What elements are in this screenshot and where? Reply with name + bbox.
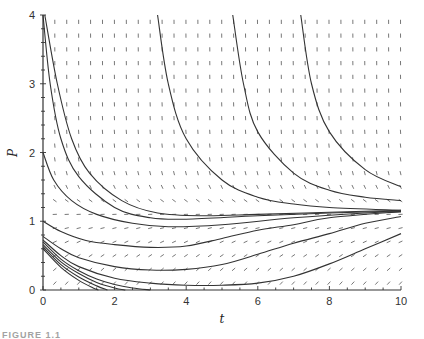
slope-mark (387, 228, 391, 229)
slope-mark (136, 228, 140, 229)
slope-mark (197, 185, 199, 189)
slope-mark (245, 185, 247, 189)
slope-mark (172, 254, 175, 256)
slope-mark (125, 199, 128, 201)
slope-mark (113, 268, 116, 271)
slope-mark (53, 282, 56, 285)
slope-mark (316, 282, 319, 285)
figure-caption: FIGURE 1.1 (2, 330, 61, 339)
slope-mark (375, 268, 378, 271)
slope-mark (196, 199, 199, 201)
slope-mark (65, 199, 68, 201)
slope-mark (245, 171, 246, 175)
slope-mark (399, 268, 402, 271)
slope-mark (339, 199, 342, 201)
slope-mark (160, 199, 163, 201)
slope-mark (340, 171, 341, 175)
x-tick-label: 0 (40, 295, 46, 307)
slope-mark (185, 282, 188, 285)
slope-mark (114, 157, 115, 161)
slope-mark (328, 185, 330, 189)
slope-mark (232, 282, 235, 285)
slope-mark (232, 268, 235, 271)
slope-mark (340, 185, 342, 189)
slope-mark (54, 171, 55, 175)
y-tick-label: 1 (29, 215, 35, 227)
slope-mark (387, 282, 390, 285)
slope-mark (232, 254, 235, 256)
slope-mark (54, 185, 56, 189)
slope-mark (125, 254, 128, 256)
slope-mark (363, 282, 366, 285)
x-tick-label: 6 (255, 295, 261, 307)
slope-mark (363, 254, 366, 256)
slope-mark (220, 241, 224, 243)
slope-mark (375, 282, 378, 285)
slope-mark (375, 254, 378, 256)
slope-mark (137, 199, 140, 201)
y-tick-label: 4 (29, 9, 35, 21)
slope-mark (245, 157, 246, 161)
x-tick-label: 8 (326, 295, 332, 307)
slope-mark (89, 199, 92, 201)
slope-mark (102, 171, 103, 175)
slope-mark (196, 282, 199, 285)
slope-mark (399, 282, 402, 285)
slope-mark (53, 199, 56, 201)
slope-mark (292, 282, 295, 285)
slope-mark (363, 268, 366, 271)
slope-mark (77, 254, 80, 256)
slope-mark (257, 185, 259, 189)
slope-mark (399, 241, 403, 243)
slope-mark (315, 254, 318, 256)
slope-mark (101, 268, 104, 271)
slope-mark (255, 228, 259, 229)
slope-mark (341, 157, 342, 161)
slope-mark (138, 171, 139, 175)
slope-mark (352, 185, 354, 189)
slope-mark (150, 157, 151, 161)
slope-mark (303, 241, 307, 243)
slope-mark (186, 157, 187, 161)
slope-mark (268, 268, 271, 271)
slope-mark (150, 171, 151, 175)
slope-mark (184, 254, 187, 256)
slope-mark (256, 268, 259, 271)
slope-mark (233, 157, 234, 161)
slope-mark (148, 254, 151, 256)
slope-mark (221, 185, 223, 189)
slope-mark (90, 157, 91, 161)
slope-mark (376, 185, 378, 189)
slope-mark (244, 241, 248, 243)
slope-mark (209, 185, 211, 189)
slope-mark (220, 199, 223, 201)
slope-mark (327, 268, 330, 271)
slope-mark (351, 282, 354, 285)
slope-mark (387, 254, 390, 256)
slope-mark (196, 228, 200, 229)
slope-mark (339, 268, 342, 271)
slope-mark (280, 254, 283, 256)
solution-curve (45, 15, 401, 216)
y-axis-label: P (6, 148, 20, 158)
slope-mark (351, 268, 354, 271)
slope-mark (114, 171, 115, 175)
slope-mark (375, 228, 379, 229)
x-tick-label: 2 (112, 295, 118, 307)
slope-mark (172, 228, 176, 229)
slope-mark (185, 185, 187, 189)
slope-mark (149, 185, 151, 189)
slope-mark (220, 268, 223, 271)
slope-mark (208, 268, 211, 271)
slope-mark (376, 157, 377, 161)
slope-mark (269, 157, 270, 161)
slope-mark (89, 228, 93, 229)
slope-mark (268, 254, 271, 256)
slope-mark (293, 157, 294, 161)
slope-mark (281, 157, 282, 161)
slope-mark (388, 185, 390, 189)
slope-mark (292, 268, 295, 271)
slope-mark (267, 241, 271, 243)
slope-mark (329, 157, 330, 161)
slope-mark (280, 268, 283, 271)
